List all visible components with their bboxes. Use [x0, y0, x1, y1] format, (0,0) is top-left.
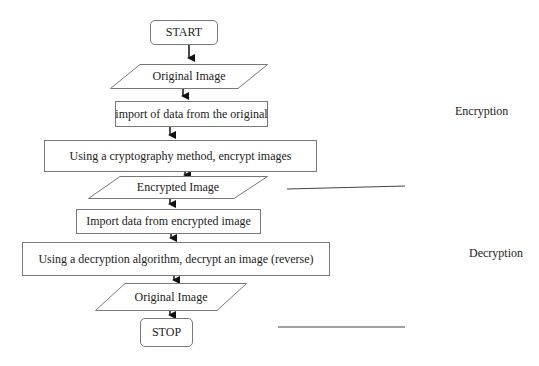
original-image-output: Original Image: [95, 283, 247, 311]
import-original-process: import of data from the original: [115, 101, 268, 127]
encrypted-image-data: Encrypted Image: [88, 176, 268, 199]
connectors: [0, 0, 539, 366]
encrypt-process: Using a cryptography method, encrypt ima…: [44, 140, 317, 172]
encrypted-image-label: Encrypted Image: [137, 180, 219, 195]
original-image-input: Original Image: [110, 64, 268, 89]
import-encrypted-label: Import data from encrypted image: [86, 214, 251, 229]
decryption-section-label: Decryption: [469, 246, 523, 261]
stop-label: STOP: [152, 325, 181, 340]
decrypt-process: Using a decryption algorithm, decrypt an…: [22, 242, 330, 276]
start-terminator: START: [150, 20, 218, 45]
import-encrypted-process: Import data from encrypted image: [76, 209, 261, 234]
start-label: START: [166, 25, 202, 40]
encryption-section-label: Encryption: [455, 104, 508, 119]
original-image-output-label: Original Image: [135, 290, 208, 305]
decrypt-label: Using a decryption algorithm, decrypt an…: [38, 252, 313, 267]
import-original-label: import of data from the original: [115, 107, 267, 122]
encrypt-label: Using a cryptography method, encrypt ima…: [70, 149, 292, 164]
stop-terminator: STOP: [140, 318, 193, 347]
original-image-label: Original Image: [153, 69, 226, 84]
